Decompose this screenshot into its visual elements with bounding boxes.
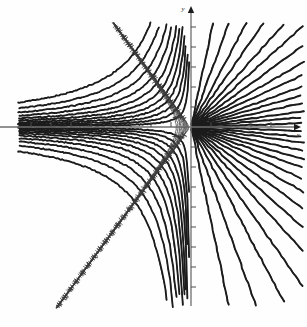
field-lines-plot: x y xyxy=(0,0,307,327)
figure-root: x y Orthogonal net of field lines and eq… xyxy=(0,0,307,327)
hatch-tick xyxy=(168,146,173,147)
